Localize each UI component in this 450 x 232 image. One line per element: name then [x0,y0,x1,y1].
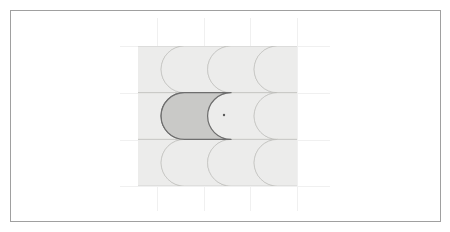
figure-root [0,0,450,232]
tile-center-point [223,114,225,116]
marker-layer [223,114,225,116]
tiling-figure-svg [0,0,450,232]
tiling-layer [115,46,324,186]
tile-group [115,46,324,186]
